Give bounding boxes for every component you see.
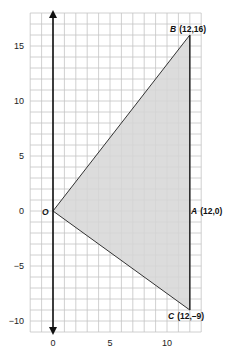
point-c-coords: (12,–9) xyxy=(177,311,204,321)
x-tick-labels: 0510 xyxy=(50,338,172,348)
point-label-o: O xyxy=(42,207,49,217)
y-tick-labels: 151050−5−10 xyxy=(9,41,24,326)
x-tick-label: 10 xyxy=(162,338,172,348)
coordinate-diagram: 151050−5−10 0510 B(12,16) A(12,0) C(12,–… xyxy=(0,0,228,358)
point-label-a: A(12,0) xyxy=(190,206,223,216)
point-label-c: C(12,–9) xyxy=(168,311,204,321)
y-tick-label: 5 xyxy=(19,151,24,161)
y-tick-label: −5 xyxy=(14,261,24,271)
x-tick-label: 0 xyxy=(50,338,55,348)
point-b-coords: (12,16) xyxy=(179,24,206,34)
point-label-b: B(12,16) xyxy=(170,24,206,34)
x-tick-label: 5 xyxy=(107,338,112,348)
y-tick-label: 0 xyxy=(19,206,24,216)
point-a-coords: (12,0) xyxy=(200,206,222,216)
y-tick-label: −10 xyxy=(9,316,24,326)
y-tick-label: 15 xyxy=(14,41,24,51)
y-tick-label: 10 xyxy=(14,96,24,106)
